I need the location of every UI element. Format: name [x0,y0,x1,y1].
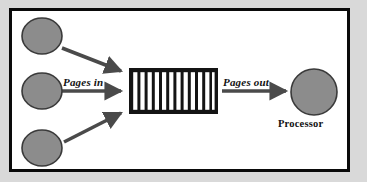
diagram-canvas: Pages in Pages out Processor [0,0,367,182]
source-top [22,18,62,54]
arrow-source-bottom-to-queue [64,113,121,142]
pages-out-label: Pages out [223,77,269,88]
processor-node [291,69,337,115]
source-middle [22,73,62,109]
page-queue-buffer [129,68,218,114]
diagram-graphics [0,0,367,182]
source-bottom [22,130,62,166]
pages-in-label: Pages in [63,77,103,88]
processor-label: Processor [278,119,323,130]
arrow-source-top-to-queue [62,48,121,71]
